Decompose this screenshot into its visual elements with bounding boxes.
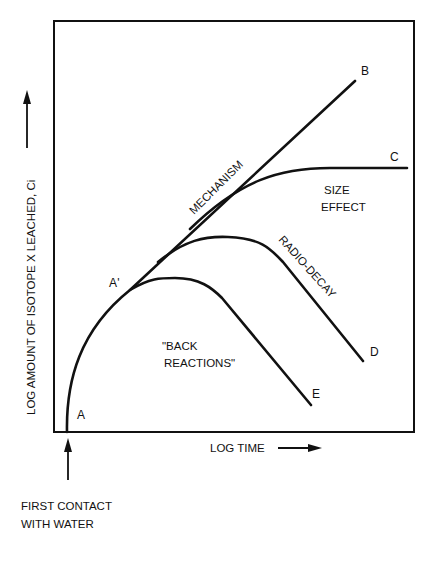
size-effect-label-line1: SIZE (324, 184, 350, 196)
y-axis-label: LOG AMOUNT OF ISOTOPE X LEACHED, Ci (25, 180, 37, 415)
first-contact-label-line1: FIRST CONTACT (21, 500, 112, 512)
leaching-diagram: A A' B C D E MECHANISM SIZE EFFECT RADIO… (0, 0, 433, 566)
back-reactions-label-line2: REACTIONS" (164, 357, 235, 369)
first-contact-arrow-icon (64, 438, 72, 480)
curve-back-reactions-e (130, 278, 311, 405)
point-c-label: C (390, 150, 399, 164)
y-axis-arrow-icon (23, 90, 31, 148)
point-d-label: D (370, 345, 379, 359)
size-effect-label-line2: EFFECT (321, 201, 366, 213)
first-contact-label-line2: WITH WATER (21, 518, 94, 530)
curve-mechanism-b (67, 81, 355, 432)
point-a-label: A (77, 408, 85, 422)
back-reactions-label-line1: "BACK (162, 340, 198, 352)
point-a-prime-label: A' (109, 276, 120, 290)
point-b-label: B (361, 64, 369, 78)
x-axis-arrow-icon (278, 444, 322, 452)
point-e-label: E (312, 387, 320, 401)
plot-frame (54, 21, 414, 432)
x-axis-label: LOG TIME (210, 442, 265, 454)
